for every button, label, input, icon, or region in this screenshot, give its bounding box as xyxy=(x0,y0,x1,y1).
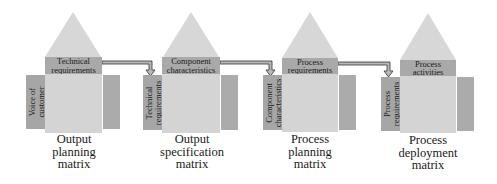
right-column xyxy=(103,75,120,129)
left-line: requirements xyxy=(391,82,400,126)
roof-correlation-matrix xyxy=(282,12,338,58)
caption-line: matrix xyxy=(270,158,350,171)
qfd-diagram: Technical requirements Voice of customer… xyxy=(0,0,497,184)
left-line: characteristics xyxy=(273,78,282,127)
relationship-matrix xyxy=(400,76,456,133)
header-component-characteristics: Component characteristics xyxy=(162,57,220,74)
left-column-label: Process requirements xyxy=(382,82,399,126)
left-line: requirements xyxy=(153,80,162,124)
right-column xyxy=(457,77,474,131)
right-column xyxy=(339,75,356,130)
caption-line: Process xyxy=(386,134,470,147)
caption-line: Output xyxy=(151,133,233,146)
header-line: characteristics xyxy=(167,66,216,75)
left-column-label: Voice of customer xyxy=(27,86,44,117)
left-line: Technical xyxy=(144,80,153,124)
header-process-requirements: Process requirements xyxy=(282,58,338,74)
caption-line: Output xyxy=(34,133,114,146)
caption-line: matrix xyxy=(386,159,470,172)
left-column-process-requirements: Process requirements xyxy=(381,77,400,131)
left-line: Process xyxy=(382,82,391,126)
header-line: requirements xyxy=(51,66,95,75)
caption-line: Process xyxy=(270,133,350,146)
arrow-connector-1 xyxy=(102,61,155,76)
header-technical-requirements: Technical requirements xyxy=(45,57,102,74)
roof-correlation-matrix xyxy=(163,12,219,57)
left-line: Voice of xyxy=(27,86,36,117)
arrow-connector-2 xyxy=(220,61,275,76)
left-column-label: Component characteristics xyxy=(264,78,281,127)
left-line: Component xyxy=(264,78,273,127)
caption-line: matrix xyxy=(34,158,114,171)
relationship-matrix xyxy=(162,74,220,133)
caption-line: matrix xyxy=(151,158,233,171)
left-line: customer xyxy=(36,86,45,117)
caption-output-specification-matrix: Output specification matrix xyxy=(151,133,233,171)
left-column-component-characteristics: Component characteristics xyxy=(263,75,282,130)
caption-process-deployment-matrix: Process deployment matrix xyxy=(386,134,470,172)
header-process-activities: Process activities xyxy=(400,60,456,76)
relationship-matrix xyxy=(282,74,338,132)
caption-output-planning-matrix: Output planning matrix xyxy=(34,133,114,171)
left-column-label: Technical requirements xyxy=(144,80,161,124)
roof-correlation-matrix xyxy=(45,12,101,57)
right-column xyxy=(221,75,238,130)
left-column-voice-of-customer: Voice of customer xyxy=(26,75,45,129)
roof-correlation-matrix xyxy=(400,13,456,60)
relationship-matrix xyxy=(45,74,102,133)
left-column-technical-requirements: Technical requirements xyxy=(143,75,162,130)
caption-process-planning-matrix: Process planning matrix xyxy=(270,133,350,171)
